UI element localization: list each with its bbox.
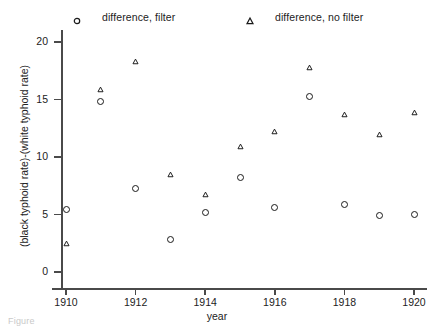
- data-point: [63, 240, 70, 247]
- data-point: [411, 109, 418, 116]
- data-point: [376, 131, 383, 138]
- data-point: [132, 185, 139, 192]
- data-point: [271, 128, 278, 135]
- data-point: [97, 86, 104, 93]
- data-point: [341, 201, 348, 208]
- typhoid-difference-scatter-figure: difference, filter difference, no filter…: [0, 0, 434, 331]
- data-point: [341, 111, 348, 118]
- data-points-layer: [0, 0, 434, 331]
- figure-caption: Figure: [8, 316, 35, 326]
- data-point: [306, 93, 313, 100]
- data-point: [411, 211, 418, 218]
- data-point: [237, 174, 244, 181]
- data-point: [237, 143, 244, 150]
- data-point: [132, 58, 139, 65]
- data-point: [202, 191, 209, 198]
- data-point: [167, 236, 174, 243]
- data-point: [63, 206, 70, 213]
- data-point: [306, 64, 313, 71]
- data-point: [97, 98, 104, 105]
- data-point: [376, 212, 383, 219]
- data-point: [167, 171, 174, 178]
- data-point: [202, 209, 209, 216]
- plot-area: 05101520 191019121914191619181920 (black…: [0, 0, 434, 331]
- data-point: [271, 204, 278, 211]
